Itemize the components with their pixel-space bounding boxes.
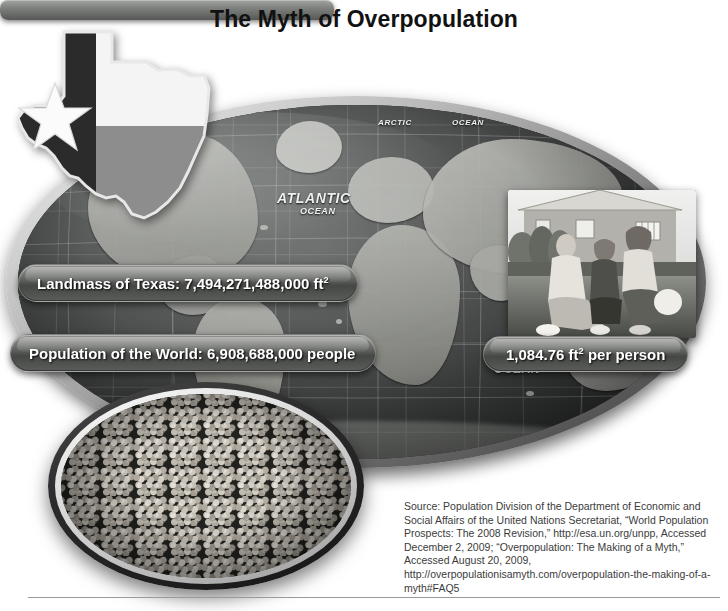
bottom-divider: [28, 597, 720, 598]
banner-per-person-prefix: 1,084.76 ft: [506, 346, 579, 363]
banner-population-of-world: Population of the World: 6,908,688,000 p…: [10, 334, 376, 372]
island-speck: [336, 319, 342, 324]
banner-area-per-person: 1,084.76 ft2 per person: [483, 336, 688, 372]
infographic-poster: The Myth of Overpopulation: [0, 0, 728, 611]
banner-landmass-of-texas: Landmass of Texas: 7,494,271,488,000 ft2: [18, 264, 358, 302]
family-photo: [508, 190, 696, 338]
island-speck: [526, 391, 534, 396]
crowd-photo-oval: [48, 382, 364, 590]
landmass-greenland: [276, 121, 342, 173]
banner-per-person-text: 1,084.76 ft2 per person: [506, 346, 665, 363]
banner-landmass-prefix: Landmass of Texas: 7,494,271,488,000 ft: [37, 275, 324, 292]
banner-landmass-text: Landmass of Texas: 7,494,271,488,000 ft2: [37, 275, 329, 292]
island-speck: [260, 225, 268, 230]
texas-flag-shape: [8, 26, 223, 226]
crowd-oval-photo: [61, 394, 351, 578]
banner-per-person-suffix: per person: [584, 346, 666, 363]
banner-landmass-exponent: 2: [324, 275, 329, 285]
family-photo-illustration: [508, 190, 696, 338]
banner-population-text: Population of the World: 6,908,688,000 p…: [29, 345, 355, 362]
crowd-vignette: [61, 394, 351, 578]
source-citation: Source: Population Division of the Depar…: [404, 500, 722, 595]
